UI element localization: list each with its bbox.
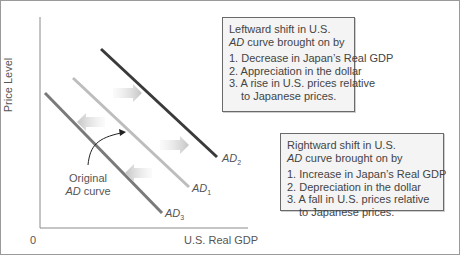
cause-item: 2. Appreciation in the dollar xyxy=(229,65,348,78)
pointer-arrow-icon xyxy=(88,133,121,165)
ad2-label: AD2 xyxy=(222,152,241,166)
right-arrow-icon xyxy=(113,84,142,102)
cause-item: 1. Increase in Japan’s Real GDP xyxy=(287,168,437,181)
ad3-label: AD3 xyxy=(165,207,184,221)
cause-item: 3. A fall in U.S. prices relative xyxy=(287,193,437,206)
cause-item: 1. Decrease in Japan’s Real GDP xyxy=(229,52,348,65)
y-axis-label: Price Level xyxy=(2,50,14,120)
rightward-shift-box: Rightward shift in U.S. AD curve brought… xyxy=(280,133,444,211)
ad2-curve xyxy=(101,49,217,157)
arrowhead-icon xyxy=(119,129,126,136)
right-arrow-icon xyxy=(160,136,189,154)
x-axis-label: U.S. Real GDP xyxy=(184,234,258,247)
origin-label: 0 xyxy=(30,234,36,247)
cause-item-cont: to Japanese prices. xyxy=(287,206,437,219)
cause-item-cont: to Japanese prices. xyxy=(229,90,348,103)
cause-item: 3. A rise in U.S. prices relative xyxy=(229,77,348,90)
cause-item: 2. Depreciation in the dollar xyxy=(287,181,437,194)
original-curve-annotation: Original AD curve xyxy=(62,172,114,198)
ad1-label: AD1 xyxy=(192,182,211,196)
leftward-shift-box: Leftward shift in U.S. AD curve brought … xyxy=(222,17,355,112)
